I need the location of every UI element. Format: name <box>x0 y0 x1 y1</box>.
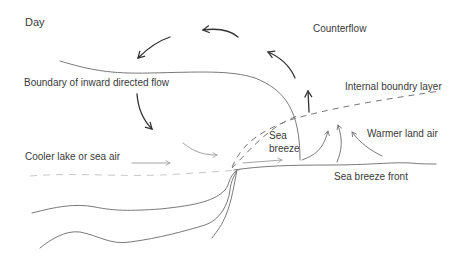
diagram-canvas: Day Counterflow Boundary of inward direc… <box>0 0 462 275</box>
arrow-counterflow-up <box>268 52 295 78</box>
boundary-inward-flow-line <box>60 61 300 160</box>
diagram-title: Day <box>25 16 45 28</box>
label-sea-breeze-front: Sea breeze front <box>334 171 408 182</box>
arrow-rising-2 <box>337 125 341 162</box>
label-warmer-land-air: Warmer land air <box>367 128 438 139</box>
sea-breeze-diagram: Day Counterflow Boundary of inward direc… <box>0 0 462 275</box>
coastline-upper <box>32 171 236 213</box>
label-internal-boundary-layer: Internal boundry layer <box>345 81 442 92</box>
arrow-boundary-down <box>137 94 152 129</box>
arrow-return-flow-left <box>138 37 170 58</box>
label-cooler-air: Cooler lake or sea air <box>25 151 121 162</box>
coastline-lower <box>40 170 237 248</box>
sea-breeze-front-ground-line <box>234 163 436 170</box>
label-sea-breeze-1: Sea <box>269 130 287 141</box>
cliff-line <box>212 170 237 238</box>
sea-level-dashed <box>30 170 240 176</box>
label-boundary-inward-flow: Boundary of inward directed flow <box>24 77 170 88</box>
arrow-cooler-air-2 <box>183 143 217 155</box>
label-sea-breeze-2: breeze <box>269 143 300 154</box>
label-counterflow: Counterflow <box>313 23 367 34</box>
sea-breeze-front-dashed <box>232 115 300 168</box>
arrow-counterflow-top <box>203 29 238 37</box>
arrow-sea-breeze <box>243 160 282 163</box>
arrow-rising-1 <box>302 131 328 160</box>
arrow-internal-layer-up <box>308 91 309 112</box>
